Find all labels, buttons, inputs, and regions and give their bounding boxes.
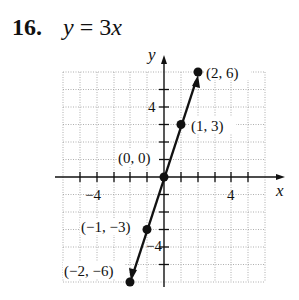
point-label-1-3: (1, 3): [191, 118, 224, 135]
point-label-m2-m6: (−2, −6): [64, 263, 113, 280]
point-0-0: [160, 173, 169, 182]
x-axis-label: x: [275, 181, 284, 200]
point-2-6: [194, 68, 203, 77]
point-label-2-6: (2, 6): [206, 65, 239, 82]
y-tick-label-neg4: −4: [146, 238, 162, 254]
x-tick-label-4: 4: [227, 187, 235, 203]
y-axis-label: y: [146, 45, 156, 64]
graph: y x −4 4 4 −4 (2, 6) (1, 3) (0, 0) (−1, …: [0, 0, 299, 300]
point-label-0-0: (0, 0): [118, 150, 151, 167]
point-m1-m3: [143, 225, 152, 234]
point-label-m1-m3: (−1, −3): [81, 219, 130, 236]
point-1-3: [177, 120, 186, 129]
arrow-up-icon: [192, 75, 200, 88]
x-tick-label-neg4: −4: [85, 187, 101, 203]
y-tick-label-4: 4: [148, 99, 156, 115]
point-m2-m6: [126, 278, 135, 287]
